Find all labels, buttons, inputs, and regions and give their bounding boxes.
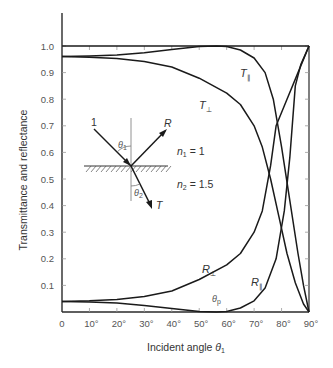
hatch-line	[96, 166, 101, 172]
y-tick-label: 0.5	[41, 174, 54, 185]
y-tick-label: 0.7	[41, 120, 54, 131]
y-axis-title: Transmittance and reflectance	[17, 109, 29, 250]
y-tick-label: 0.6	[41, 147, 54, 158]
hatch-line	[126, 166, 131, 172]
hatch-line	[156, 166, 161, 172]
x-axis-title: Incident angle θ1	[147, 341, 225, 354]
n2-label: n2 = 1.5	[177, 178, 213, 191]
x-tick-label: 10°	[84, 318, 99, 329]
hatch-line	[141, 166, 146, 172]
n1-label: n1 = 1	[177, 145, 205, 158]
label-R-parallel: R∥	[251, 276, 263, 291]
x-tick-label: 40°	[167, 318, 182, 329]
label-R-perp: R⊥	[202, 263, 216, 277]
x-tick-label: 60°	[221, 318, 236, 329]
theta2-arc	[131, 184, 140, 186]
y-tick-label: 1.0	[41, 41, 54, 52]
hatch-line	[151, 166, 156, 172]
label-T-parallel: T∥	[240, 67, 251, 82]
hatch-line	[166, 166, 171, 172]
reflected-ray-label: R	[164, 117, 172, 129]
x-tick-label: 20°	[112, 318, 127, 329]
interface-hatching	[86, 166, 171, 172]
x-tick-label: 50°	[194, 318, 209, 329]
y-tick-label: 0.8	[41, 94, 54, 105]
hatch-line	[101, 166, 106, 172]
x-tick-label: 70°	[249, 318, 264, 329]
fresnel-chart: 0.10.20.30.40.50.60.70.80.91.0 010°20°30…	[0, 0, 333, 368]
incident-ray-label: 1	[91, 116, 97, 128]
curves	[62, 46, 309, 312]
y-tick-label: 0.2	[41, 253, 54, 264]
hatch-line	[86, 166, 91, 172]
hatch-line	[111, 166, 116, 172]
y-tick-label: 0.1	[41, 280, 54, 291]
curve-t	[62, 46, 309, 312]
hatch-line	[116, 166, 121, 172]
label-T-perp: T⊥	[199, 99, 212, 113]
hatch-line	[106, 166, 111, 172]
hatch-line	[161, 166, 166, 172]
label-theta-p: θp	[212, 294, 221, 306]
hatch-line	[121, 166, 126, 172]
x-tick-label: 80°	[276, 318, 291, 329]
hatch-line	[136, 166, 141, 172]
y-tick-label: 0.9	[41, 67, 54, 78]
y-tick-label: 0.3	[41, 227, 54, 238]
curve-r	[62, 46, 309, 312]
curve-r	[62, 46, 309, 301]
x-tick-label: 0	[59, 318, 64, 329]
y-ticks: 0.10.20.30.40.50.60.70.80.91.0	[41, 41, 309, 291]
refraction-inset-diagram: 1 R T θ1 θ2 n1 = 1 n2 = 1.5	[84, 116, 213, 211]
theta1-label: θ1	[118, 140, 127, 151]
hatch-line	[146, 166, 151, 172]
y-tick-label: 0.4	[41, 200, 54, 211]
hatch-line	[91, 166, 96, 172]
x-tick-label: 90°	[304, 318, 319, 329]
transmitted-arrow-icon	[146, 200, 152, 209]
transmitted-ray-label: T	[156, 199, 164, 211]
x-tick-label: 30°	[139, 318, 154, 329]
reflected-ray	[131, 131, 165, 166]
theta2-label: θ2	[134, 188, 143, 199]
